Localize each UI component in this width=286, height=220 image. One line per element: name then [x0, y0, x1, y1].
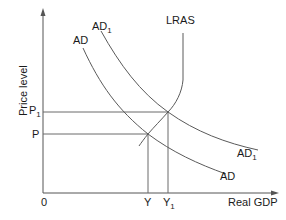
- y1-label: Y1: [163, 196, 175, 211]
- ad-curve: [83, 48, 226, 174]
- ad-top-label: AD: [73, 34, 88, 46]
- x-axis: [43, 191, 279, 196]
- x-axis-label: Real GDP: [228, 196, 278, 208]
- y-axis-arrow-icon: [41, 8, 46, 16]
- y-axis: [41, 8, 46, 193]
- ad-lras-diagram: Price level Real GDP 0 LRAS AD AD1 AD AD…: [0, 0, 286, 220]
- p1-label: P1: [29, 104, 41, 119]
- ad-bottom-label: AD: [220, 170, 235, 182]
- y-axis-label: Price level: [17, 65, 29, 116]
- y-label: Y: [144, 196, 152, 208]
- ad1-curve: [101, 31, 258, 150]
- lras-curve: [139, 33, 183, 146]
- diagram-canvas: Price level Real GDP 0 LRAS AD AD1 AD AD…: [0, 0, 286, 220]
- p-label: P: [32, 128, 39, 140]
- guide-lines: [43, 112, 168, 193]
- x-axis-arrow-icon: [271, 191, 279, 196]
- lras-label: LRAS: [166, 14, 195, 26]
- origin-label: 0: [41, 196, 47, 208]
